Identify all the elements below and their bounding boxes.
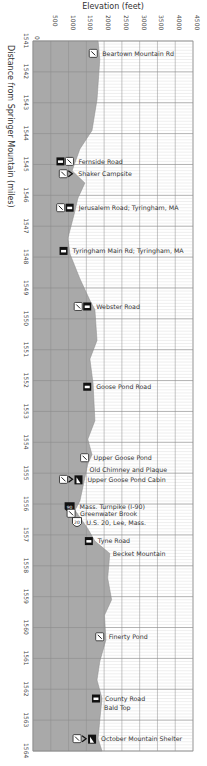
landmark: County Road: [92, 695, 145, 703]
landmark: Finerty Pond: [96, 633, 148, 641]
elevation-profile-chart: Elevation (feet) 05001000150020002500300…: [0, 0, 207, 766]
mile-tick-label: 1546: [23, 187, 30, 202]
mile-tick-label: 1555: [23, 465, 30, 480]
elevation-tick-label: 2000: [105, 15, 112, 30]
mile-tick-label: 1562: [23, 681, 30, 696]
landmark-label: Finerty Pond: [109, 633, 148, 641]
landmark-label: Old Chimney and Plaque: [89, 466, 167, 474]
landmark: Tyne Road: [85, 537, 130, 545]
landmark: Webster Road: [74, 302, 140, 310]
mile-tick-label: 1552: [23, 373, 30, 388]
svg-text:90: 90: [67, 505, 73, 510]
mile-tick-label: 1557: [23, 527, 30, 542]
mile-tick-label: 1559: [23, 589, 30, 604]
mile-tick-label: 1560: [23, 620, 30, 635]
elevation-tick-label: 3000: [141, 15, 148, 30]
landmark: Fernside Road: [56, 157, 122, 165]
mile-tick-label: 1558: [23, 558, 30, 573]
mile-tick-label: 1549: [23, 280, 30, 295]
mile-tick-label: 1548: [23, 249, 30, 264]
landmark-label: Goose Pond Road: [96, 383, 151, 390]
elevation-tick-labels: 050010001500200025003000350040004500: [34, 15, 201, 40]
elevation-tick-label: 3500: [158, 15, 165, 30]
mile-tick-label: 1554: [23, 434, 30, 449]
distance-axis-title: Distance from Springer Mountain (miles): [6, 45, 15, 208]
mile-tick-label: 1541: [23, 33, 30, 48]
elevation-tick-label: 500: [52, 15, 59, 27]
landmark-label: Fernside Road: [78, 158, 122, 165]
landmark: Tyringham Main Rd; Tyringham, MA: [60, 247, 185, 255]
landmark-label: Upper Goose Pond: [94, 454, 152, 462]
elevation-tick-label: 4000: [176, 15, 183, 30]
landmark-label: Jerusalem Road; Tyringham, MA: [78, 204, 179, 212]
landmark-label: Beartown Mountain Rd: [102, 50, 174, 57]
mile-tick-label: 1544: [23, 126, 30, 141]
landmark: Beartown Mountain Rd: [89, 49, 174, 57]
elevation-tick-label: 1000: [70, 15, 77, 30]
mile-tick-label: 1545: [23, 156, 30, 171]
mile-tick-labels: 1541154215431544154515461547154815491550…: [23, 33, 30, 758]
mile-tick-label: 1547: [23, 218, 30, 233]
landmark-label: County Road: [105, 695, 145, 703]
landmark: Old Chimney and Plaque: [89, 466, 167, 474]
landmark-label: U.S. 20, Lee, Mass.: [86, 519, 146, 526]
elevation-tick-label: 1500: [87, 15, 94, 30]
landmark-label: Bald Top: [104, 704, 131, 712]
mile-tick-label: 1551: [23, 342, 30, 357]
elevation-tick-label: 2500: [123, 15, 130, 30]
svg-text:20: 20: [74, 520, 80, 525]
landmark: Bald Top: [104, 704, 131, 712]
landmark-label: Greenwater Brook: [80, 510, 137, 517]
elevation-axis-title: Elevation (feet): [82, 2, 144, 11]
landmark: Becket Mountain: [113, 550, 166, 557]
elevation-tick-label: 0: [34, 36, 41, 40]
landmark-label: October Mountain Shelter: [101, 735, 182, 742]
mile-tick-label: 1556: [23, 496, 30, 511]
mile-tick-label: 1553: [23, 403, 30, 418]
mile-tick-label: 1550: [23, 311, 30, 326]
mile-tick-label: 1564: [23, 743, 30, 758]
landmark-label: Tyringham Main Rd; Tyringham, MA: [72, 247, 185, 255]
mile-tick-label: 1561: [23, 650, 30, 665]
mile-tick-label: 1563: [23, 712, 30, 727]
elevation-tick-label: 4500: [194, 15, 201, 30]
mile-tick-label: 1542: [23, 64, 30, 79]
landmark-label: Tyne Road: [97, 537, 130, 545]
mile-tick-label: 1543: [23, 95, 30, 110]
plot-area: [33, 41, 193, 751]
landmark-label: Webster Road: [96, 303, 140, 310]
landmark-label: Upper Goose Pond Cabin: [87, 476, 165, 484]
landmark-label: Shaker Campsite: [78, 170, 132, 178]
landmark-label: Becket Mountain: [113, 550, 166, 557]
